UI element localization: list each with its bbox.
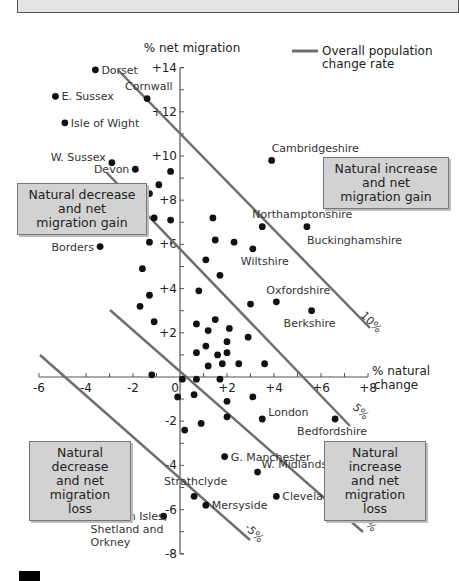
legend-label: Overall population [322,44,433,58]
point-label: Oxfordshire [266,284,330,297]
quadrant-label-lower-right: Natural increase and net migration loss [324,441,426,521]
data-point [167,217,174,224]
point-label: Isle of Wight [71,117,140,130]
data-point [212,237,219,244]
data-point [167,168,174,175]
data-point [261,360,268,367]
legend-label: change rate [322,57,394,71]
point-label: Mersyside [212,499,268,512]
reference-line-label: -5% [242,521,266,545]
point-label: Cornwall [125,80,173,93]
data-point [219,360,226,367]
data-point-labeled [308,307,315,314]
data-point-labeled [304,223,311,230]
data-point [214,352,221,359]
data-point-labeled [332,416,339,423]
data-point [146,190,153,197]
data-point-labeled [259,416,266,423]
x-axis-title: % natural [372,364,430,378]
quadrant-label-lower-left: Natural decrease and net migration loss [29,441,131,521]
data-point [195,287,202,294]
data-point [174,393,181,400]
data-point-labeled [97,243,104,250]
quadrant-label-line: migration gain [24,216,140,230]
y-tick-label: +10 [152,149,177,163]
quadrant-label-upper-right: Natural increase and net migration gain [323,157,449,209]
data-point [205,363,212,370]
data-point [212,316,219,323]
quadrant-label-line: and net [331,474,419,488]
data-point-labeled [144,95,151,102]
data-point [235,360,242,367]
x-tick-label: +2 [218,381,236,395]
quadrant-label-line: Natural decrease [24,188,140,202]
data-point [245,334,252,341]
data-point-labeled [259,223,266,230]
quadrant-label-line: and net [36,474,124,488]
figure-marker-block [19,571,40,581]
point-label: Cambridgeshire [272,142,359,155]
data-point [137,303,144,310]
data-point [231,239,238,246]
data-point [249,393,256,400]
data-point-labeled [249,245,256,252]
data-point-labeled [92,66,99,73]
quadrant-label-line: and net [330,176,442,190]
data-point-labeled [202,502,209,509]
point-label: Berkshire [284,317,336,330]
data-point-labeled [52,93,59,100]
data-point [210,214,217,221]
point-label: Orkney [91,536,131,549]
data-point-labeled [254,469,261,476]
data-point [179,376,186,383]
point-label: Bedfordshire [297,425,367,438]
data-point [247,301,254,308]
y-tick-label: +8 [159,193,177,207]
y-tick-label: +4 [159,282,177,296]
data-point [217,376,224,383]
reference-line-label: 10% [358,309,384,335]
point-label: Wiltshire [241,255,289,268]
x-tick-label: -6 [33,381,45,395]
data-point [224,338,231,345]
data-point [224,413,231,420]
point-label: W. Sussex [51,151,107,164]
point-label: Buckinghamshire [307,234,402,247]
data-point-labeled [273,298,280,305]
data-point-labeled [221,453,228,460]
quadrant-label-line: Natural decrease [36,446,124,474]
data-point [224,349,231,356]
point-label: Strathclyde [164,475,227,488]
data-point-labeled [273,493,280,500]
data-point [146,239,153,246]
data-point [191,391,198,398]
data-point [148,371,155,378]
data-point [217,272,224,279]
point-label: Borders [51,241,94,254]
point-label: London [268,406,308,419]
data-point [155,181,162,188]
data-point-labeled [61,119,68,126]
y-tick-label: +2 [159,326,177,340]
quadrant-label-line: migration loss [331,488,419,516]
point-label: Dorset [101,64,138,77]
point-label: Devon [94,163,129,176]
point-label: W. Midlands [262,458,328,471]
data-point [193,376,200,383]
data-point [202,256,209,263]
data-point [205,327,212,334]
quadrant-label-line: and net [24,202,140,216]
quadrant-label-line: Natural increase [331,446,419,474]
data-point [181,427,188,434]
data-point [226,325,233,332]
y-tick-label: -2 [165,414,177,428]
quadrant-label-line: Natural increase [330,162,442,176]
data-point-labeled [268,157,275,164]
x-axis-title: change [374,378,418,392]
point-label: Shetland and [91,523,164,536]
data-point [193,321,200,328]
quadrant-label-line: migration loss [36,488,124,516]
reference-line-label: 5% [350,401,372,423]
x-tick-label: -2 [127,381,139,395]
data-point [151,214,158,221]
